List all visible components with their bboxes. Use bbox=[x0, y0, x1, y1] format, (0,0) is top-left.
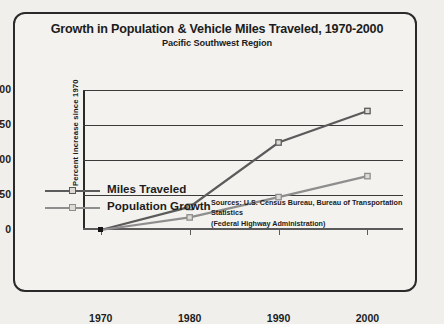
x-axis-tick bbox=[190, 230, 191, 235]
x-axis-tick-label: 2000 bbox=[356, 312, 379, 324]
legend-marker-icon bbox=[69, 187, 76, 194]
origin-point-marker bbox=[98, 227, 103, 232]
x-axis-tick bbox=[367, 230, 368, 235]
chart-title: Growth in Population & Vehicle Miles Tra… bbox=[15, 22, 419, 36]
data-point-marker bbox=[365, 173, 370, 178]
chart-figure: Growth in Population & Vehicle Miles Tra… bbox=[13, 12, 417, 292]
y-axis-tick-label: 50 bbox=[0, 188, 11, 200]
legend-label: Miles Traveled bbox=[107, 182, 186, 195]
y-axis-tick-label: 200 bbox=[0, 83, 11, 95]
x-axis-tick-label: 1990 bbox=[267, 312, 290, 324]
source-line-2: (Federal Highway Administration) bbox=[211, 219, 411, 229]
source-note: Sources: U.S. Census Bureau, Bureau of T… bbox=[211, 198, 411, 229]
x-axis-tick-label: 1970 bbox=[89, 312, 112, 324]
data-point-marker bbox=[276, 140, 281, 145]
x-axis-tick-label: 1980 bbox=[178, 312, 201, 324]
y-axis-label: Percent increase since 1970 bbox=[71, 79, 80, 186]
legend-marker-icon bbox=[69, 204, 76, 211]
x-axis-tick bbox=[279, 230, 280, 235]
y-axis-tick-label: 150 bbox=[0, 118, 11, 130]
y-axis-tick-label: 0 bbox=[5, 223, 11, 235]
chart-subtitle: Pacific Southwest Region bbox=[15, 38, 419, 48]
data-point-marker bbox=[365, 108, 370, 113]
data-point-marker bbox=[187, 215, 192, 220]
y-axis-tick-label: 100 bbox=[0, 153, 11, 165]
source-line-1: Sources: U.S. Census Bureau, Bureau of T… bbox=[211, 198, 411, 219]
legend-label: Population Growth bbox=[107, 199, 211, 212]
